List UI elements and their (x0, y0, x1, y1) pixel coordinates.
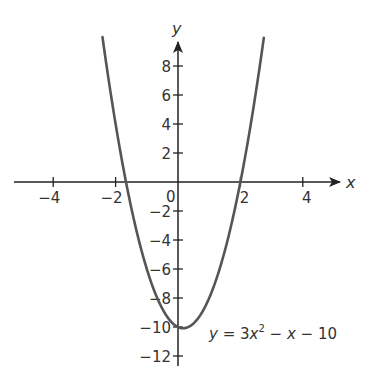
y-tick-label: −6 (149, 261, 171, 279)
origin-label: 0 (166, 188, 176, 206)
y-axis-label: y (171, 19, 182, 38)
y-tick-label: −4 (149, 232, 171, 250)
y-tick-label: −12 (139, 348, 171, 366)
y-tick-label: 4 (161, 116, 171, 134)
equation-label: y = 3x2 − x − 10 (208, 323, 337, 343)
parabola-chart: x y −4−224 8642−2−4−6−8−10−12 0 y = 3x2 … (0, 0, 369, 377)
x-tick-label: −4 (38, 189, 60, 207)
y-tick-label: 8 (161, 58, 171, 76)
y-ticks: 8642−2−4−6−8−10−12 (139, 58, 183, 366)
x-axis-label: x (345, 173, 356, 192)
y-tick-label: −10 (139, 319, 171, 337)
y-tick-label: 6 (161, 87, 171, 105)
y-tick-label: 2 (161, 145, 171, 163)
x-tick-label: 4 (302, 189, 312, 207)
x-tick-label: 2 (240, 189, 250, 207)
x-tick-label: −2 (101, 189, 123, 207)
